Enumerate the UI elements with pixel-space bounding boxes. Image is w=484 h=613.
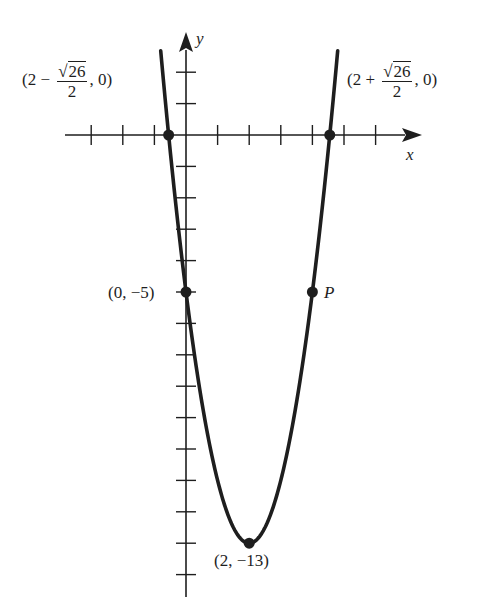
point-left-root (163, 130, 174, 141)
point-P (307, 287, 318, 298)
point-vertex (244, 538, 255, 549)
y-axis-arrow-icon (179, 32, 193, 52)
right-root-label: (2 + √26 2 , 0) (347, 63, 437, 100)
point-y-intercept (181, 287, 192, 298)
sqrt-icon: √ (58, 62, 67, 81)
x-axis-label: x (406, 146, 414, 163)
left-root-radicand: 26 (68, 61, 86, 81)
left-root-close: , 0) (90, 70, 113, 89)
sqrt-icon: √ (383, 62, 392, 81)
right-root-open: (2 + (347, 70, 375, 89)
right-root-fraction: √26 2 (382, 63, 411, 100)
left-root-label: (2 − √26 2 , 0) (22, 63, 112, 100)
points (163, 130, 335, 549)
point-right-root (324, 130, 335, 141)
left-root-open: (2 − (22, 70, 50, 89)
vertex-label: (2, −13) (214, 552, 269, 569)
right-root-close: , 0) (415, 70, 438, 89)
right-root-radicand: 26 (393, 61, 411, 81)
left-root-fraction: √26 2 (57, 63, 86, 100)
y-intercept-label: (0, −5) (108, 284, 154, 301)
y-axis-label: y (196, 30, 204, 47)
point-p-label: P (324, 284, 334, 301)
right-root-denominator: 2 (382, 82, 411, 100)
left-root-denominator: 2 (57, 82, 86, 100)
